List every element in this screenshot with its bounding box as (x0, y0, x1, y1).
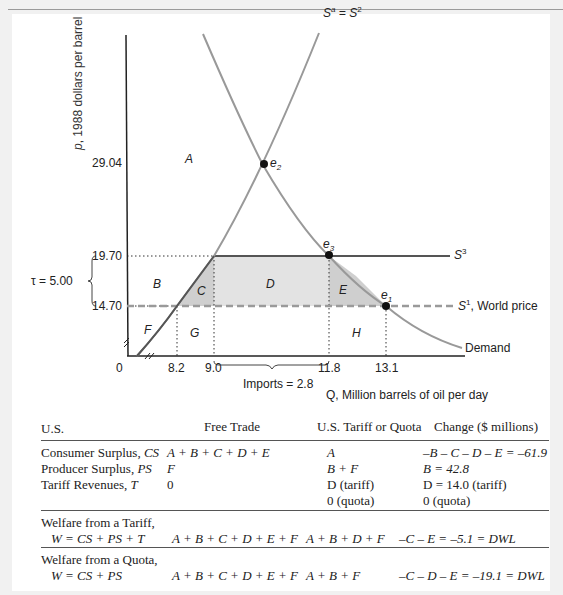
row-t-label: Tariff Revenues, T (41, 477, 138, 493)
header-free-trade: Free Trade (204, 419, 260, 435)
section-rule-2 (41, 547, 549, 548)
row-ps-label: Producer Surplus, PS (41, 461, 152, 477)
welfare-quota-change: –C – D – E = –19.1 = DWL (399, 568, 545, 584)
row-t-change: D = 14.0 (tariff) (423, 477, 507, 493)
header-rule (41, 440, 549, 441)
header-us: U.S. (41, 421, 64, 437)
row-cs-tariff: A (327, 445, 335, 461)
row-cs-change: –B – C – D – E = –61.9 (423, 445, 547, 461)
row-cs-free: A + B + C + D + E (167, 445, 270, 461)
row-quota-change: 0 (quota) (423, 493, 470, 509)
header-tariff-quota: U.S. Tariff or Quota (317, 419, 421, 435)
welfare-tariff-line2: W = CS + PS + T (51, 531, 145, 547)
welfare-tariff-change: –C – E = –5.1 = DWL (399, 531, 516, 547)
welfare-table: U.S. Free Trade U.S. Tariff or Quota Cha… (0, 0, 563, 595)
header-change: Change ($ millions) (434, 419, 538, 435)
welfare-tariff-tariff: A + B + D + F (306, 531, 385, 547)
row-ps-tariff: B + F (327, 461, 358, 477)
welfare-quota-line2: W = CS + PS (51, 568, 122, 584)
row-ps-change: B = 42.8 (423, 461, 469, 477)
row-t-tariff: D (tariff) (327, 477, 374, 493)
welfare-quota-line1: Welfare from a Quota, (41, 552, 158, 568)
row-ps-free: F (167, 461, 175, 477)
welfare-quota-free: A + B + C + D + E + F (172, 568, 298, 584)
section-rule-1 (41, 510, 549, 511)
row-t-free: 0 (167, 477, 174, 493)
welfare-tariff-line1: Welfare from a Tariff, (41, 515, 155, 531)
row-cs-label: Consumer Surplus, CS (41, 445, 159, 461)
welfare-quota-tariff: A + B + F (306, 568, 360, 584)
welfare-tariff-free: A + B + C + D + E + F (172, 531, 298, 547)
row-quota-tariff: 0 (quota) (327, 493, 374, 509)
